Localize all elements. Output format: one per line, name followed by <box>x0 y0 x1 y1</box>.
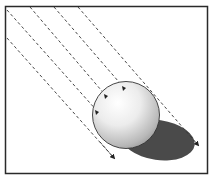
diagram-canvas <box>0 0 212 180</box>
sphere <box>93 82 160 149</box>
light-sphere-diagram <box>0 0 212 180</box>
